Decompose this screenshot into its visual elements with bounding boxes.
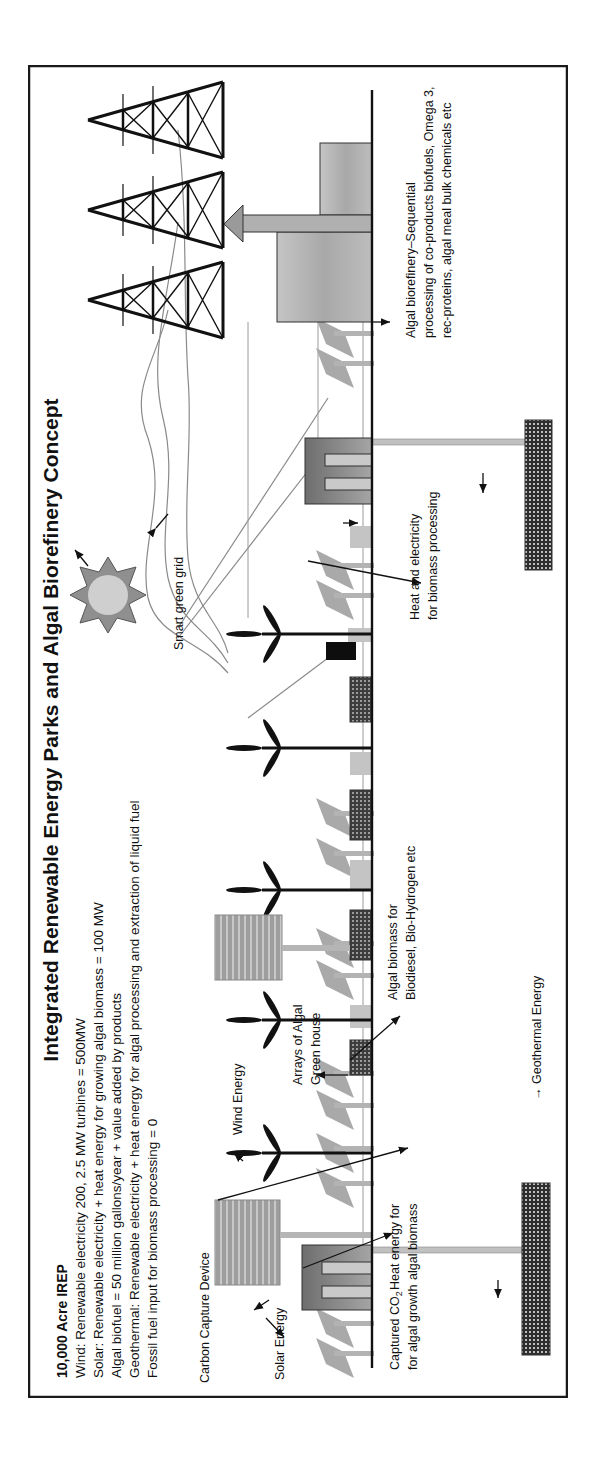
wind-energy-label: Wind Energy — [231, 1063, 245, 1135]
captured-co2-label-2: for algal growth — [406, 1284, 420, 1370]
algal-biomass-label-2: Biodiesel, Bio-Hydrogen etc — [404, 846, 418, 1000]
info-heading: 10,000 Acre IREP — [54, 1264, 70, 1378]
heat-energy-label-2: algal biomass — [406, 1204, 420, 1280]
power-plant-right — [305, 438, 372, 504]
figure-title: Integrated Renewable Energy Parks and Al… — [39, 398, 62, 1061]
info-line-geothermal: Geothermal: Renewable electricity + heat… — [127, 801, 142, 1378]
smart-grid-label: Smart green grid — [172, 557, 186, 650]
control-unit — [326, 642, 356, 660]
biorefinery-label: Algal biorefinery–Sequential — [404, 182, 418, 338]
algal-biomass-label: Algal biomass for — [386, 904, 400, 1000]
info-line-solar: Solar: Renewable electricity + heat ener… — [91, 902, 106, 1378]
biorefinery-label-2: processing of co-products biofuels, Omeg… — [422, 86, 436, 338]
info-line-biofuel: Algal biofuel = 50 million gallons/year … — [109, 993, 124, 1378]
heat-energy-label: Heat energy for — [388, 1204, 402, 1290]
arrays-label: Arrays of Algal — [291, 1004, 305, 1085]
geothermal-energy-label: → Geothermal Energy — [530, 975, 544, 1100]
biorefinery-label-3: rec-proteins, algal meal bulk chemicals … — [440, 102, 454, 338]
solar-energy-label: Solar Energy — [273, 1307, 287, 1380]
info-line-wind: Wind: Renewable electricity 200, 2.5 MW … — [73, 1018, 88, 1378]
captured-co2-label: Captured CO2 — [388, 1291, 404, 1370]
sun-icon — [70, 557, 146, 633]
heat-electricity-label-2: for biomass processing — [426, 491, 440, 620]
info-line-fossil: Fossil fuel input for biomass processing… — [145, 1119, 160, 1378]
carbon-capture-label: Carbon Capture Device — [198, 1252, 212, 1383]
irep-diagram: Integrated Renewable Energy Parks and Al… — [28, 65, 568, 1398]
heat-electricity-label: Heat and electricity — [408, 513, 422, 620]
arrays-label-2: Green house — [309, 1013, 323, 1085]
